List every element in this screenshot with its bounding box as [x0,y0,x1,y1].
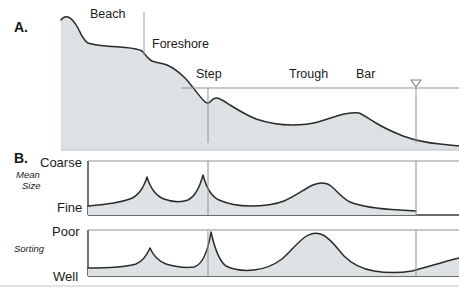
panel-b-group: B. Mean Size Coarse Fine Sorting Poor We… [14,150,459,284]
label-bar: Bar [356,67,375,81]
sorting-axis-bottom-label: Well [53,269,78,284]
sorting-chart: Sorting Poor Well [14,224,459,284]
label-foreshore: Foreshore [152,37,209,51]
sorting-fill [88,232,459,276]
water-surface-triangle-icon [411,80,421,87]
mean-size-chart: Mean Size Coarse Fine [16,155,459,215]
label-step: Step [196,67,222,81]
sorting-side-label: Sorting [14,243,45,254]
beach-profile-fill [61,17,459,150]
mean-size-axis-bottom-label: Fine [57,200,82,215]
panel-a-letter: A. [14,19,28,35]
label-beach: Beach [90,7,125,21]
label-trough: Trough [289,67,328,81]
sorting-axis-top-label: Poor [52,224,80,239]
mean-size-side-label-line1: Mean [16,169,40,180]
panel-a-group: A. Beach Foreshore Step Trough Bar [14,7,459,150]
panel-b-letter: B. [14,150,28,166]
mean-size-side-label-line2: Size [22,180,40,191]
mean-size-axis-top-label: Coarse [40,155,82,170]
beach-profile-sediment-figure: A. Beach Foreshore Step Trough Bar B. Me… [0,0,459,291]
